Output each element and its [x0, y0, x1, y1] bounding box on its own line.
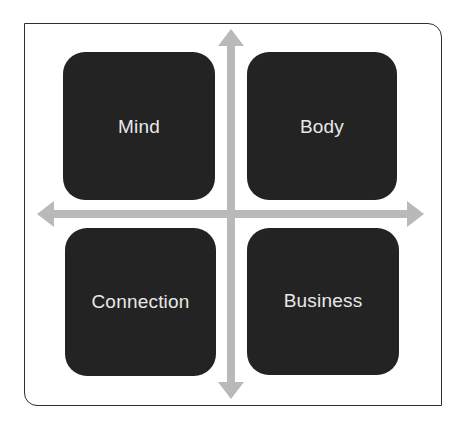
quadrant-business: Business [247, 228, 399, 375]
quadrant-label: Body [300, 117, 344, 136]
quadrant-label: Business [284, 291, 363, 310]
quadrant-body: Body [247, 52, 397, 200]
quadrant-mind: Mind [63, 52, 215, 200]
quadrant-connection: Connection [65, 228, 216, 376]
quadrant-label: Connection [91, 292, 189, 311]
quadrant-label: Mind [118, 117, 160, 136]
